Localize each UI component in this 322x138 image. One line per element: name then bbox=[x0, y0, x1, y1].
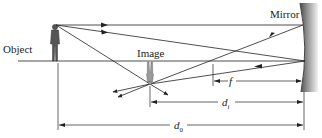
focal-length-label: f bbox=[229, 75, 234, 87]
incident-rays bbox=[56, 25, 305, 95]
image-figure-icon bbox=[147, 62, 154, 85]
ray-arrow-icon bbox=[101, 30, 108, 35]
concave-mirror bbox=[300, 3, 318, 92]
dimension-lines bbox=[58, 63, 304, 130]
image-label: Image bbox=[137, 47, 165, 59]
object-figure-icon bbox=[51, 24, 60, 61]
object-distance-label: d0 bbox=[174, 119, 184, 134]
mirror-label: Mirror bbox=[270, 8, 300, 20]
object-distance-sub: 0 bbox=[180, 126, 184, 134]
image-distance-sub: i bbox=[228, 103, 230, 111]
ray-arrow-icon bbox=[101, 23, 108, 28]
object-label: Object bbox=[3, 43, 32, 55]
mirror-ray-diagram: Object Image Mirror f di d0 bbox=[0, 0, 322, 138]
dimension-arrow-icons bbox=[59, 79, 303, 127]
image-distance-label: di bbox=[222, 96, 230, 111]
